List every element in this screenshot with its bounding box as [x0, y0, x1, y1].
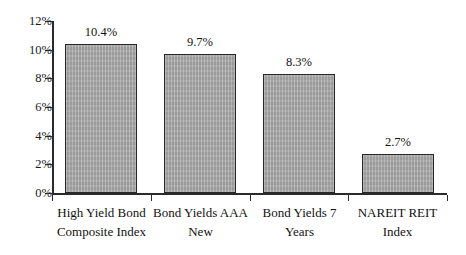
x-axis-category-label-line: Bond Yields AAA	[151, 203, 250, 222]
x-axis-category-label-line: New	[151, 222, 250, 241]
bar-value-label: 8.3%	[259, 56, 339, 69]
x-axis-category-label: Bond Yields AAANew	[151, 203, 250, 241]
x-axis-tick-mark	[447, 195, 448, 201]
bar-value-label: 10.4%	[61, 26, 141, 39]
bar	[164, 54, 236, 193]
x-axis-category-label-line: High Yield Bond	[52, 203, 151, 222]
y-axis-tick-mark	[45, 136, 52, 137]
x-axis-tick-mark	[52, 195, 53, 201]
x-axis-category-label-line: Years	[250, 222, 349, 241]
bar-chart: 0%2%4%6%8%10%12% 10.4%9.7%8.3%2.7% High …	[0, 0, 466, 255]
x-axis-category-label-line: Composite Index	[52, 222, 151, 241]
bar-value-label: 9.7%	[160, 36, 240, 49]
x-axis-category-label-line: Index	[348, 222, 447, 241]
x-axis-category-label-line: Bond Yields 7	[250, 203, 349, 222]
bar	[263, 74, 335, 193]
y-axis-tick-mark	[45, 193, 52, 194]
x-axis-tick-mark	[151, 195, 152, 201]
bar-texture	[363, 155, 433, 192]
x-axis-category-label: Bond Yields 7Years	[250, 203, 349, 241]
y-axis-tick-mark	[45, 21, 52, 22]
bar-texture	[66, 45, 136, 192]
y-axis-tick-mark	[45, 50, 52, 51]
y-axis-tick-mark	[45, 164, 52, 165]
x-axis-category-label: High Yield BondComposite Index	[52, 203, 151, 241]
x-axis-category-label-line: NAREIT REIT	[348, 203, 447, 222]
bar-texture	[264, 75, 334, 192]
bar	[65, 44, 137, 193]
x-axis-category-label: NAREIT REITIndex	[348, 203, 447, 241]
y-axis-tick-mark	[45, 107, 52, 108]
bar-texture	[165, 55, 235, 192]
x-axis-tick-mark	[348, 195, 349, 201]
bar	[362, 154, 434, 193]
y-axis-tick-mark	[45, 78, 52, 79]
y-axis-line	[52, 21, 54, 195]
x-axis-tick-mark	[250, 195, 251, 201]
bar-value-label: 2.7%	[358, 136, 438, 149]
